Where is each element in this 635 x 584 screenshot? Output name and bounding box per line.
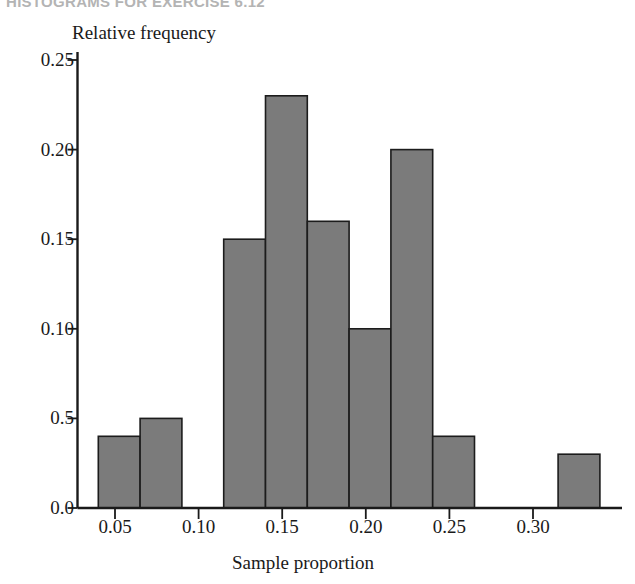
figure-container: HISTOGRAMS FOR EXERCISE 6.12 Relative fr…: [0, 0, 635, 584]
histogram-bar: [391, 150, 433, 508]
histogram-bar: [433, 436, 475, 508]
histogram-bar: [98, 436, 140, 508]
histogram-bar: [224, 239, 266, 508]
histogram-bar: [558, 454, 600, 508]
histogram-bar: [349, 329, 391, 508]
histogram-bar: [266, 96, 308, 508]
histogram-bar: [307, 221, 349, 508]
histogram-bar: [140, 418, 182, 508]
histogram-plot: [0, 0, 635, 584]
